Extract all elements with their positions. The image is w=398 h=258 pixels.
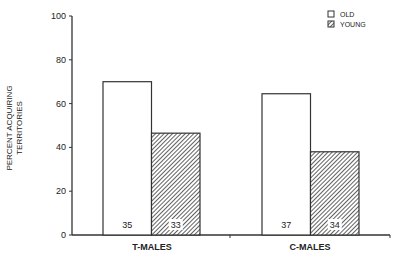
bar-t-males-old (103, 82, 152, 235)
sample-size-label: 34 (330, 220, 340, 230)
y-tick-label: 40 (56, 142, 66, 152)
y-tick-label: 60 (56, 99, 66, 109)
y-tick-label: 100 (51, 11, 66, 21)
category-label-t-males: T-MALES (132, 242, 172, 252)
bars: 35333734 (103, 82, 359, 235)
y-axis-label-line1: PERCENT ACQUIRING (5, 85, 14, 170)
y-tick-label: 20 (56, 186, 66, 196)
legend-label-old: OLD (340, 11, 354, 18)
bar-c-males-old (262, 94, 311, 235)
sample-size-label: 33 (171, 220, 181, 230)
y-tick-label: 0 (61, 230, 66, 240)
y-tick-label: 80 (56, 55, 66, 65)
sample-size-label: 37 (281, 220, 291, 230)
legend: OLD YOUNG (328, 11, 366, 28)
legend-swatch-young (328, 21, 334, 27)
legend-swatch-old (328, 11, 334, 17)
legend-label-young: YOUNG (340, 21, 366, 28)
sample-size-label: 35 (122, 220, 132, 230)
category-label-c-males: C-MALES (290, 242, 331, 252)
y-axis-label-line2: TERRITORIES (15, 101, 24, 155)
y-ticks: 020406080100 (51, 11, 72, 240)
bar-chart: PERCENT ACQUIRING TERRITORIES 0204060801… (0, 0, 398, 258)
